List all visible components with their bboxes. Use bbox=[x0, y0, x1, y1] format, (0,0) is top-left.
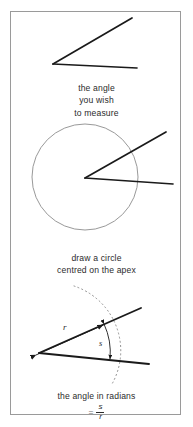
lower-ray-1 bbox=[53, 64, 137, 68]
figure-border: the angle you wish to measure draw a cir… bbox=[10, 11, 181, 415]
caption-the-angle-you-wish-to-measure: the angle you wish to measure bbox=[11, 82, 182, 119]
lower-ray-2 bbox=[85, 178, 173, 184]
fraction-s-over-r: s r bbox=[96, 403, 104, 421]
panel-2-diagram bbox=[11, 120, 182, 250]
figure-canvas: the angle you wish to measure draw a cir… bbox=[0, 0, 193, 427]
panel-3-diagram: r s bbox=[11, 280, 182, 390]
caption-1-line-3: to measure bbox=[11, 107, 182, 119]
fraction-denominator: r bbox=[97, 413, 104, 422]
caption-3-line-1: the angle in radians bbox=[11, 390, 182, 402]
caption-2-line-2: centred on the apex bbox=[11, 264, 182, 276]
angle-rays-3 bbox=[39, 308, 149, 364]
equals-sign: = bbox=[89, 407, 94, 417]
radius-label: r bbox=[63, 322, 67, 332]
arc-length-arrow bbox=[104, 324, 110, 359]
caption-1-line-2: you wish bbox=[11, 94, 182, 106]
caption-the-angle-in-radians: the angle in radians bbox=[11, 390, 182, 402]
fraction-numerator: s bbox=[96, 403, 104, 412]
radian-formula: = s r bbox=[11, 403, 182, 421]
radius-arrow bbox=[36, 325, 103, 355]
angle-rays-1 bbox=[53, 18, 137, 68]
caption-1-line-1: the angle bbox=[11, 82, 182, 94]
upper-ray-2 bbox=[85, 132, 166, 178]
angle-rays-2 bbox=[85, 132, 173, 184]
caption-draw-a-circle-centred-on-the-apex: draw a circle centred on the apex bbox=[11, 252, 182, 277]
panel-1-diagram bbox=[11, 12, 182, 82]
arc-length-label: s bbox=[99, 338, 103, 348]
caption-2-line-1: draw a circle bbox=[11, 252, 182, 264]
lower-ray-3 bbox=[39, 353, 149, 364]
measuring-circle bbox=[32, 124, 138, 230]
upper-ray-1 bbox=[53, 18, 132, 64]
